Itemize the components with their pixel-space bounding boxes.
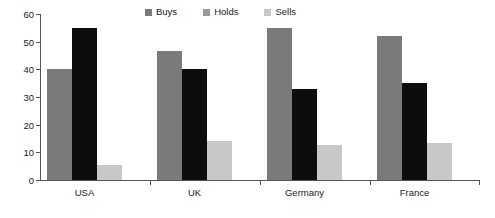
y-tick-label: 10 xyxy=(23,147,34,158)
bar-group xyxy=(150,14,260,180)
y-tick-label: 0 xyxy=(29,175,34,186)
y-tick-label: 60 xyxy=(23,9,34,20)
bar-group xyxy=(40,14,150,180)
y-tick-label: 30 xyxy=(23,92,34,103)
x-tick xyxy=(479,181,480,185)
bar-chart: Buys Holds Sells 0102030405060 USAUKGerm… xyxy=(0,0,495,218)
y-tick-label: 40 xyxy=(23,64,34,75)
y-tick-label: 50 xyxy=(23,36,34,47)
y-tick xyxy=(36,180,40,181)
bar-sells-usa xyxy=(97,165,122,180)
bar-group xyxy=(370,14,480,180)
bar-buys-france xyxy=(377,36,402,180)
bar-holds-usa xyxy=(72,28,97,180)
bar-holds-germany xyxy=(292,89,317,180)
bar-holds-uk xyxy=(182,69,207,180)
bar-holds-france xyxy=(402,83,427,180)
x-tick xyxy=(260,181,261,185)
plot-area: 0102030405060 xyxy=(40,14,480,181)
bar-sells-uk xyxy=(207,141,232,180)
bar-buys-germany xyxy=(267,28,292,180)
bar-buys-usa xyxy=(47,69,72,180)
x-category-label: USA xyxy=(75,187,95,198)
y-tick-label: 20 xyxy=(23,119,34,130)
x-category-label: UK xyxy=(188,187,201,198)
bar-sells-germany xyxy=(317,145,342,180)
x-tick xyxy=(150,181,151,185)
x-category-label: Germany xyxy=(285,187,324,198)
x-category-label: France xyxy=(400,187,430,198)
bar-group xyxy=(260,14,370,180)
bar-buys-uk xyxy=(157,51,182,180)
bar-sells-france xyxy=(427,143,452,180)
x-tick xyxy=(370,181,371,185)
